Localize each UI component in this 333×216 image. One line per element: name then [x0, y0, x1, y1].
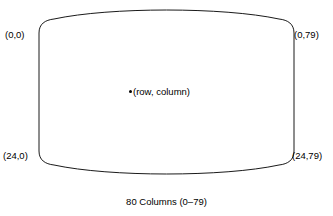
- corner-label-top-right: (0,79): [294, 30, 319, 40]
- terminal-screen-diagram: (0,0) (0,79) (24,0) (24,79) (row, column…: [0, 0, 333, 216]
- corner-label-top-left: (0,0): [5, 30, 25, 40]
- center-point-marker: (row, column): [129, 87, 190, 97]
- corner-label-bottom-right: (24,79): [292, 151, 322, 161]
- center-point-label: (row, column): [133, 87, 190, 97]
- screen-outline-svg: [0, 0, 333, 216]
- corner-label-bottom-left: (24,0): [3, 151, 28, 161]
- diagram-caption: 80 Columns (0–79): [0, 197, 333, 207]
- bullet-point-icon: [129, 90, 132, 93]
